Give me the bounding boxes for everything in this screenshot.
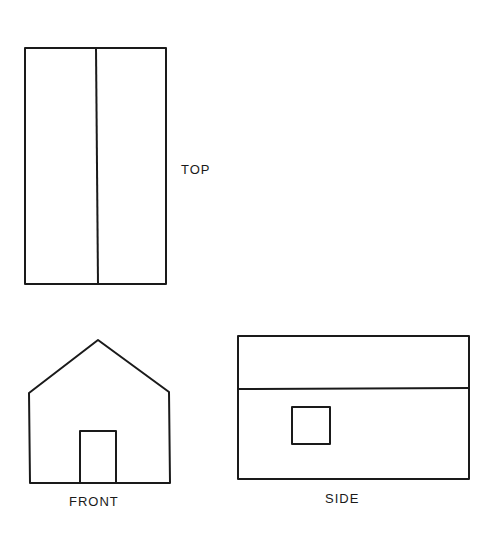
side-view-roof-line [238, 388, 469, 389]
side-view [238, 336, 469, 479]
orthographic-drawing [0, 0, 497, 539]
top-view-label: TOP [181, 163, 211, 176]
side-view-outline [238, 336, 469, 479]
side-view-window [292, 407, 330, 444]
top-view-ridge-line [96, 48, 98, 284]
front-view-outline [29, 340, 170, 483]
top-view [25, 48, 166, 284]
front-view-door [80, 431, 116, 482]
front-view [29, 340, 170, 483]
front-view-label: FRONT [69, 495, 119, 508]
side-view-label: SIDE [325, 492, 359, 505]
diagram-canvas: TOP FRONT SIDE [0, 0, 497, 539]
